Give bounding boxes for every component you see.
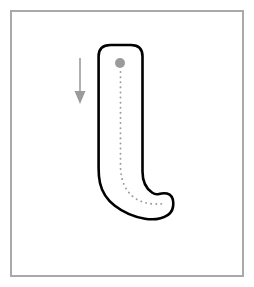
direction-arrow-down xyxy=(75,58,86,104)
arrow-head-icon xyxy=(75,91,86,104)
letter-tracing-canvas xyxy=(0,0,254,287)
letter-outline-J xyxy=(99,45,174,219)
start-dot xyxy=(115,58,125,68)
letter-outline-path xyxy=(99,45,174,219)
letter-tracing-worksheet: J Trace the letter following the dotted … xyxy=(0,0,254,287)
